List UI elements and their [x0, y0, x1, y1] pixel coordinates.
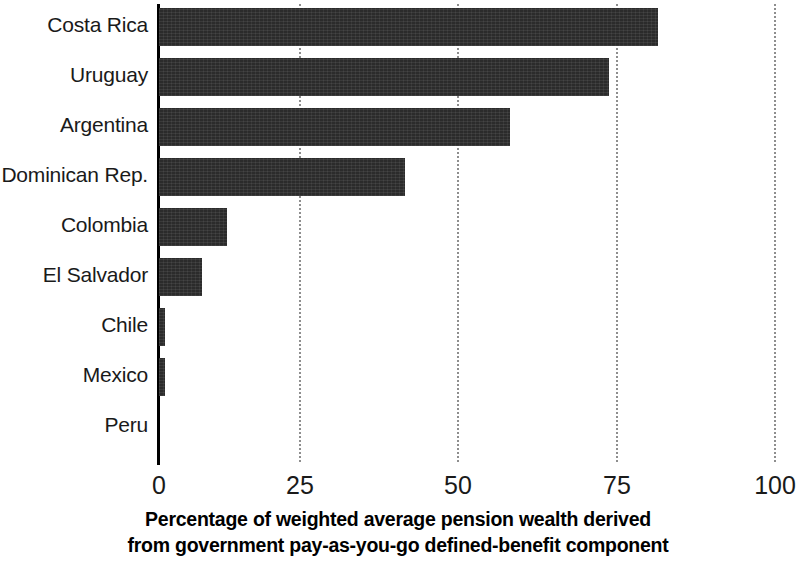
xtick-label-50: 50 [418, 470, 498, 500]
bar-row: Mexico [0, 350, 796, 400]
category-label: El Salvador [0, 256, 148, 294]
category-label: Mexico [0, 356, 148, 394]
x-axis-caption-line-2: from government pay-as-you-go defined-be… [0, 532, 796, 558]
bar-colombia [159, 208, 227, 246]
bar-row: Argentina [0, 100, 796, 150]
bar-argentina [159, 108, 510, 146]
x-axis-caption: Percentage of weighted average pension w… [0, 506, 796, 558]
category-label: Costa Rica [0, 6, 148, 44]
bar-mexico [159, 358, 165, 396]
bar-el-salvador [159, 258, 202, 296]
bar-row: Colombia [0, 200, 796, 250]
category-label: Colombia [0, 206, 148, 244]
bar-chart: Costa Rica Uruguay Argentina Dominican R… [0, 0, 796, 566]
category-label: Uruguay [0, 56, 148, 94]
bar-uruguay [159, 58, 609, 96]
bar-row: El Salvador [0, 250, 796, 300]
xtick-label-75: 75 [577, 470, 657, 500]
bar-row: Peru [0, 400, 796, 450]
xtick-label-100: 100 [735, 470, 796, 500]
bar-row: Chile [0, 300, 796, 350]
xtick-label-0: 0 [119, 470, 199, 500]
bar-chile [159, 308, 165, 346]
bar-row: Dominican Rep. [0, 150, 796, 200]
plot-area: Costa Rica Uruguay Argentina Dominican R… [0, 0, 796, 470]
bar-dominican-rep [159, 158, 405, 196]
category-label: Peru [0, 406, 148, 444]
category-label: Dominican Rep. [0, 156, 148, 194]
x-axis-caption-line-1: Percentage of weighted average pension w… [0, 506, 796, 532]
category-label: Chile [0, 306, 148, 344]
bar-costa-rica [159, 8, 658, 46]
category-label: Argentina [0, 106, 148, 144]
xtick-label-25: 25 [260, 470, 340, 500]
bar-row: Uruguay [0, 50, 796, 100]
bar-row: Costa Rica [0, 0, 796, 50]
